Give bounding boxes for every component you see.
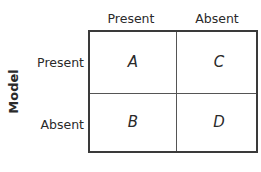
cell-a: A bbox=[113, 53, 153, 71]
cell-d: D bbox=[199, 113, 239, 131]
cell-c: C bbox=[199, 53, 239, 71]
cell-b: B bbox=[113, 113, 153, 131]
row-header-present: Present bbox=[28, 55, 84, 70]
column-header-present: Present bbox=[88, 11, 174, 26]
row-header-absent: Absent bbox=[28, 117, 84, 132]
vertical-divider bbox=[176, 32, 177, 151]
horizontal-divider bbox=[90, 93, 256, 94]
row-axis-label: Model bbox=[6, 67, 21, 117]
contingency-grid: A C B D bbox=[88, 30, 258, 153]
column-header-absent: Absent bbox=[174, 11, 260, 26]
